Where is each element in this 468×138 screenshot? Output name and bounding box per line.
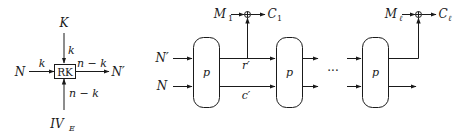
message-1-subscript: 1 (228, 14, 233, 23)
iv-subscript: E (68, 124, 75, 133)
iv-label: IV (49, 117, 65, 131)
key-edge-label: k (68, 44, 75, 57)
permutation-chain: N′ N p r′ c′ M 1 C 1 p ··· p (154, 7, 452, 108)
cipher-final-label: C (438, 7, 447, 21)
wire-top-label: r′ (242, 59, 250, 72)
output-edge-label: n − k (77, 57, 107, 70)
output-label: N′ (110, 65, 125, 79)
tap-final-arrow (389, 18, 419, 59)
key-label: K (59, 16, 70, 30)
cipher-final-subscript: ℓ (448, 14, 452, 23)
cipher-1-subscript: 1 (277, 14, 282, 23)
permutation-block-2-label: p (286, 66, 293, 79)
rk-box-label: RK (57, 66, 73, 78)
chain-input-bottom-label: N (156, 79, 168, 93)
permutation-block-3-label: p (372, 66, 379, 79)
cipher-1-label: C (267, 7, 276, 21)
diagram-canvas: K k RK N k n − k N′ n − k IV E N′ N p r′… (0, 0, 468, 138)
message-1-label: M (213, 7, 227, 21)
wire-bottom-label: c′ (242, 89, 251, 102)
ellipsis: ··· (327, 64, 338, 78)
rk-diagram: K k RK N k n − k N′ n − k IV E (14, 16, 125, 133)
iv-edge-label: n − k (69, 87, 99, 100)
nonce-input-label: N (14, 65, 26, 79)
permutation-block-1-label: p (203, 66, 210, 79)
message-final-subscript: ℓ (399, 14, 403, 23)
message-final-label: M (384, 7, 398, 21)
nonce-edge-label: k (39, 57, 46, 70)
chain-input-top-label: N′ (154, 51, 169, 65)
